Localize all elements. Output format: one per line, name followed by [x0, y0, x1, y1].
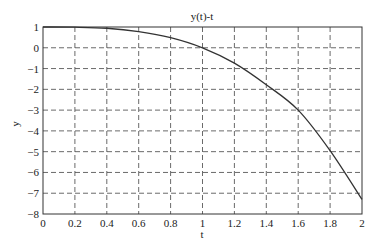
grid-layer: [43, 27, 362, 214]
x-tick-label: 1.4: [259, 217, 273, 229]
y-tick-label: 1: [34, 21, 40, 33]
y-tick-label: −3: [27, 104, 39, 116]
y-tick-label: −2: [27, 83, 39, 95]
x-tick-label: 0.2: [68, 217, 82, 229]
y-tick-label: 0: [34, 42, 40, 54]
y-tick-label: −6: [27, 166, 39, 178]
y-tick-label: −8: [27, 208, 39, 220]
x-tick-label: 1.8: [323, 217, 337, 229]
y-tick-label: −1: [27, 63, 39, 75]
y-tick-label: −4: [27, 125, 39, 137]
x-tick-label: 0.6: [132, 217, 146, 229]
y-tick-label: −5: [27, 146, 39, 158]
x-tick-label: 2: [359, 217, 365, 229]
chart-title: y(t)-t: [191, 10, 214, 23]
x-tick-label: 1.6: [291, 217, 305, 229]
y-tick-label: −7: [27, 187, 39, 199]
x-tick-label: 0.8: [164, 217, 178, 229]
x-axis-label: t: [200, 228, 203, 240]
y-axis-label: y: [9, 121, 21, 127]
x-tick-label: 0: [40, 217, 46, 229]
x-tick-label: 0.4: [100, 217, 114, 229]
y-tick-labels: 10−1−2−3−4−5−6−7−8: [27, 21, 39, 220]
line-chart: 00.20.40.60.811.21.41.61.82 10−1−2−3−4−5…: [0, 0, 375, 246]
x-tick-label: 1.2: [228, 217, 242, 229]
